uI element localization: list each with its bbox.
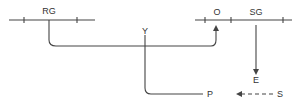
label-y: Y [142,26,148,36]
label-rg: RG [42,6,56,16]
label-sg: SG [249,7,262,17]
rg-line [9,17,95,23]
sg-line [195,17,292,23]
diagram-canvas: RG Y O SG E P S [0,0,299,104]
label-s: S [277,89,283,99]
edge-rg-to-o [49,20,216,46]
label-e: E [253,75,259,85]
label-p: P [207,89,213,99]
edge-y-to-p [145,35,203,94]
label-o: O [213,7,220,17]
